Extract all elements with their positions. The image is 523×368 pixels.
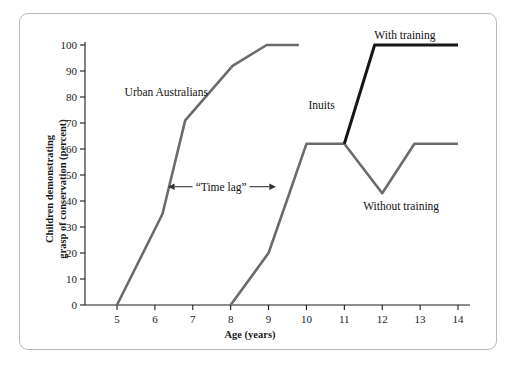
y-tick-label-30: 30 [49, 221, 77, 233]
x-tick-label-9: 9 [266, 313, 272, 325]
x-tick-label-8: 8 [228, 313, 234, 325]
chart-figure: Children demonstrating grasp of conserva… [0, 0, 523, 368]
y-tick-label-0: 0 [49, 299, 77, 311]
annotation-time-lag: “Time lag” [193, 181, 250, 193]
x-axis-title: Age (years) [224, 329, 275, 340]
x-tick-label-6: 6 [152, 313, 158, 325]
y-tick-label-70: 70 [49, 117, 77, 129]
y-tick-label-10: 10 [49, 273, 77, 285]
y-tick-label-90: 90 [49, 65, 77, 77]
annotation-without-training: Without training [363, 200, 439, 212]
chart-plot-area [0, 0, 523, 368]
y-tick-label-50: 50 [49, 169, 77, 181]
y-tick-label-60: 60 [49, 143, 77, 155]
axes [80, 42, 470, 310]
x-tick-label-13: 13 [415, 313, 426, 325]
y-tick-label-20: 20 [49, 247, 77, 259]
data-series [117, 45, 458, 305]
y-tick-label-80: 80 [49, 91, 77, 103]
annotation-with-training: With training [374, 29, 435, 41]
annotation-inuits: Inuits [308, 99, 334, 111]
y-tick-label-100: 100 [49, 39, 77, 51]
x-tick-label-10: 10 [301, 313, 312, 325]
x-tick-label-14: 14 [453, 313, 464, 325]
x-tick-label-11: 11 [339, 313, 350, 325]
series-line-urban-australians [117, 45, 299, 305]
series-line-without-training [231, 144, 458, 305]
x-tick-label-7: 7 [190, 313, 196, 325]
y-tick-label-40: 40 [49, 195, 77, 207]
series-line-with-training [344, 45, 458, 144]
x-tick-label-12: 12 [377, 313, 388, 325]
annotation-urban-australians: Urban Australians [125, 86, 208, 98]
x-tick-label-5: 5 [114, 313, 120, 325]
